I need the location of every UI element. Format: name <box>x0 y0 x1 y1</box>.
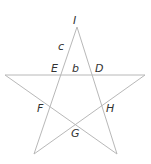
label-E: E <box>51 62 58 75</box>
label-b: b <box>72 62 79 75</box>
pentagram-diagram: I c E b D F H G <box>0 0 151 164</box>
label-D: D <box>95 62 103 75</box>
label-I: I <box>73 14 76 27</box>
label-F: F <box>37 102 44 115</box>
label-c: c <box>58 40 64 53</box>
label-H: H <box>106 102 114 115</box>
label-G: G <box>71 127 80 140</box>
edge-right-to-bottom-left <box>34 75 145 154</box>
edge-left-to-bottom-right <box>5 75 117 154</box>
edge-top-to-bottom-right <box>77 27 117 154</box>
